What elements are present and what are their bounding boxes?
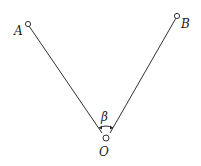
label-B: B [180,17,190,31]
label-O: O [99,145,109,159]
segment-OB [110,18,176,133]
angle-diagram: A B O β [0,0,201,166]
label-beta: β [100,110,108,124]
point-O [103,135,109,141]
point-B [174,13,179,18]
segment-OA [29,26,102,133]
point-A [25,21,30,26]
label-A: A [13,24,23,38]
